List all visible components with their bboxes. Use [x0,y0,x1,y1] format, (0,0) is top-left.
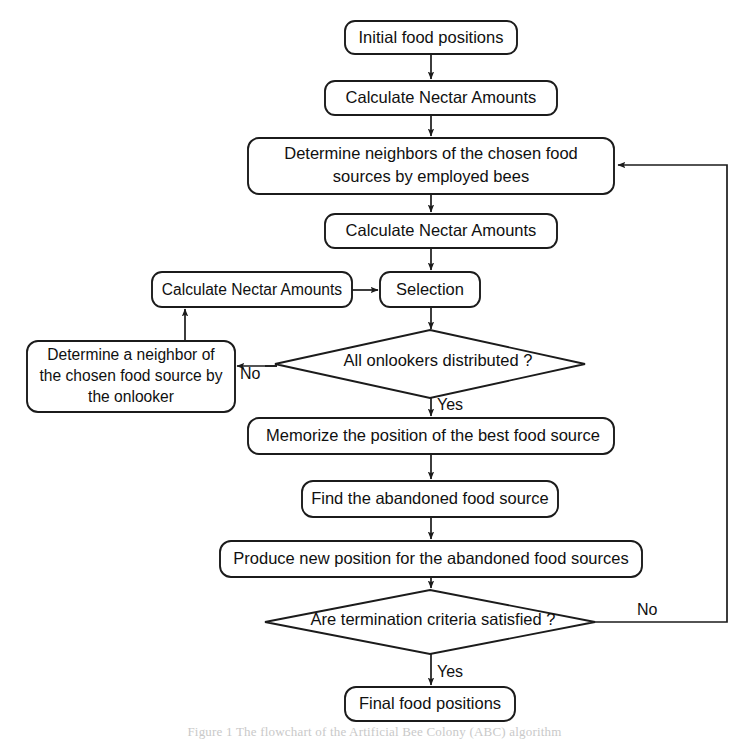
node-label: Are termination criteria satisfied ? [311,610,556,628]
node-all-onlookers-distributed: All onlookers distributed ? [275,330,585,398]
node-initial-food-positions: Initial food positions [345,21,517,54]
edge-label-onlookers-no: No [240,365,261,382]
node-determine-neighbor-onlooker: Determine a neighbor of the chosen food … [27,341,235,412]
node-label: All onlookers distributed ? [344,351,533,369]
node-label: Calculate Nectar Amounts [346,221,537,239]
node-calculate-nectar-amounts-2: Calculate Nectar Amounts [325,214,557,248]
node-label: Final food positions [359,694,501,712]
flowchart-container: Initial food positions Calculate Nectar … [0,0,749,746]
node-are-termination-criteria-satisfied: Are termination criteria satisfied ? [265,590,595,654]
node-label: Initial food positions [359,28,504,46]
node-label: Selection [396,280,464,298]
node-memorize-best-food-source: Memorize the position of the best food s… [248,418,614,454]
node-label: Calculate Nectar Amounts [346,88,537,106]
edge-label-onlookers-yes: Yes [437,396,463,413]
edge-label-termination-yes: Yes [437,663,463,680]
node-label: Memorize the position of the best food s… [266,426,600,444]
node-label-line1: Determine neighbors of the chosen food [284,144,578,162]
edge-label-termination-no: No [637,601,658,618]
node-final-food-positions: Final food positions [345,687,515,721]
node-label: Produce new position for the abandoned f… [233,549,628,567]
node-selection: Selection [380,272,480,307]
node-find-abandoned-food-source: Find the abandoned food source [302,481,558,517]
node-calculate-nectar-amounts-3: Calculate Nectar Amounts [152,272,352,307]
node-label-line2: sources by employed bees [333,167,529,185]
node-produce-new-position: Produce new position for the abandoned f… [220,541,642,577]
flowchart-canvas: Initial food positions Calculate Nectar … [0,0,749,746]
node-determine-neighbors-employed-bees: Determine neighbors of the chosen food s… [248,138,614,194]
node-label: Find the abandoned food source [311,489,549,507]
node-label-line3: the onlooker [88,388,174,405]
node-label-line2: the chosen food source by [40,367,223,384]
node-calculate-nectar-amounts-1: Calculate Nectar Amounts [325,81,557,115]
node-label: Calculate Nectar Amounts [162,281,342,298]
node-label-line1: Determine a neighbor of [47,346,215,363]
figure-caption: Figure 1 The flowchart of the Artificial… [0,724,749,746]
